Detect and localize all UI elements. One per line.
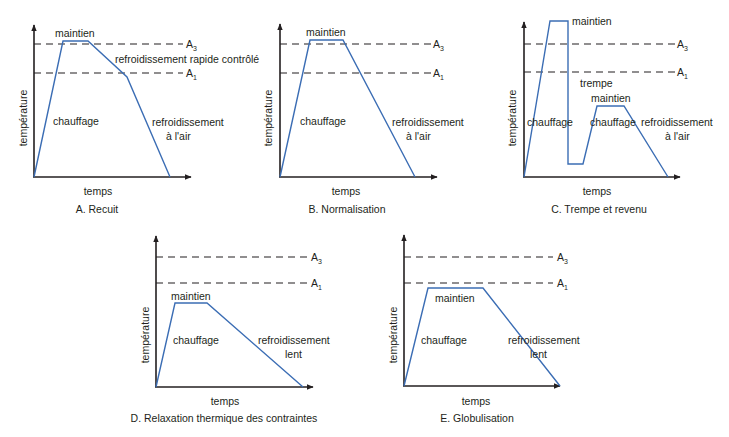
label-refroidissement: refroidissement bbox=[508, 334, 580, 346]
a1-label: A1 bbox=[433, 67, 444, 81]
caption: B. Normalisation bbox=[308, 203, 385, 215]
label-a-l-air: à l'air bbox=[665, 130, 690, 142]
label-chauffage: chauffage bbox=[173, 334, 219, 346]
caption: D. Relaxation thermique des contraintes bbox=[131, 412, 318, 424]
label-maintien-revenu: maintien bbox=[591, 92, 631, 104]
label-lent: lent bbox=[530, 348, 547, 360]
label-maintien: maintien bbox=[572, 15, 612, 27]
label-a-l-air: à l'air bbox=[166, 130, 191, 142]
a3-label: A3 bbox=[311, 251, 322, 265]
a3-label: A3 bbox=[186, 38, 197, 52]
x-axis-label: temps bbox=[84, 185, 113, 197]
a1-label: A1 bbox=[557, 277, 568, 291]
label-maintien: maintien bbox=[55, 27, 95, 39]
label-refroidissement: refroidissement bbox=[392, 116, 464, 128]
label-chauffage: chauffage bbox=[527, 116, 573, 128]
caption: C. Trempe et revenu bbox=[551, 203, 647, 215]
label-maintien: maintien bbox=[306, 26, 346, 38]
a1-label: A1 bbox=[311, 277, 322, 291]
label-a-l-air: à l'air bbox=[406, 130, 431, 142]
label-refroidissement-rapide: refroidissement rapide contrôlé bbox=[115, 53, 259, 65]
panel-e-globulisation: A3 A1 maintien chauffage refroidissement… bbox=[387, 235, 580, 424]
label-maintien: maintien bbox=[171, 290, 211, 302]
a3-label: A3 bbox=[433, 38, 444, 52]
y-axis-label: température bbox=[17, 90, 29, 147]
label-lent: lent bbox=[285, 348, 302, 360]
x-axis-label: temps bbox=[211, 395, 240, 407]
a3-label: A3 bbox=[557, 251, 568, 265]
y-axis-label: température bbox=[139, 307, 151, 364]
caption: A. Recuit bbox=[76, 203, 119, 215]
y-axis-label: température bbox=[387, 307, 399, 364]
label-chauffage: chauffage bbox=[300, 115, 346, 127]
panel-a-recuit: A3 A1 maintien refroidissement rapide co… bbox=[17, 25, 259, 215]
x-axis-label: temps bbox=[462, 395, 491, 407]
panel-d-relaxation: A3 A1 maintien chauffage refroidissement… bbox=[131, 236, 330, 424]
x-axis-label: temps bbox=[332, 185, 361, 197]
label-chauffage-revenu: chauffage bbox=[590, 116, 636, 128]
y-axis-label: température bbox=[506, 90, 518, 147]
x-axis-label: temps bbox=[583, 185, 612, 197]
a3-label: A3 bbox=[677, 38, 688, 52]
panel-c-trempe-et-revenu: A3 A1 maintien trempe maintien chauffage… bbox=[506, 15, 713, 215]
label-maintien: maintien bbox=[435, 292, 475, 304]
panel-b-normalisation: A3 A1 maintien chauffage refroidissement… bbox=[262, 24, 464, 215]
label-refroidissement: refroidissement bbox=[152, 116, 224, 128]
y-axis-label: température bbox=[262, 90, 274, 147]
label-chauffage: chauffage bbox=[421, 334, 467, 346]
temperature-curve bbox=[280, 40, 415, 177]
label-refroidissement: refroidissement bbox=[641, 116, 713, 128]
heat-treatment-diagrams: A3 A1 maintien refroidissement rapide co… bbox=[0, 0, 729, 437]
a1-label: A1 bbox=[677, 66, 688, 80]
label-trempe: trempe bbox=[580, 77, 613, 89]
a1-label: A1 bbox=[186, 67, 197, 81]
label-chauffage: chauffage bbox=[53, 115, 99, 127]
label-refroidissement: refroidissement bbox=[258, 334, 330, 346]
caption: E. Globulisation bbox=[440, 412, 514, 424]
